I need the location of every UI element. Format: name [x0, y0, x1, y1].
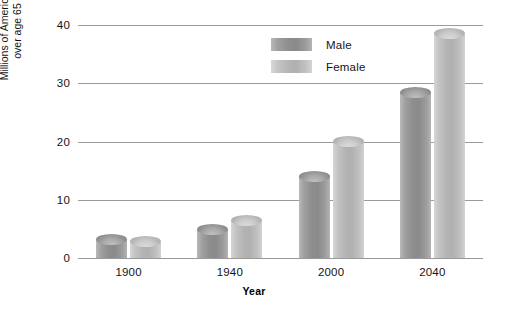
x-axis-tick-label: 2000 — [318, 266, 344, 278]
bar-male-2040[interactable] — [400, 92, 431, 258]
bar-body — [231, 220, 262, 258]
legend-item-female: Female — [271, 60, 391, 73]
bar-body — [434, 34, 465, 258]
y-axis-title-line-1: Millions of Americans — [0, 0, 10, 80]
y-axis-tick-label: 0 — [44, 252, 70, 264]
y-axis-tick-label: 40 — [44, 19, 70, 31]
bar-body — [299, 176, 330, 258]
bar-male-1900[interactable] — [96, 240, 127, 258]
bar-group — [96, 25, 161, 258]
gridline — [78, 258, 483, 259]
bar-cap-ellipse — [400, 87, 431, 98]
bar-group — [400, 25, 465, 258]
bar-female-2040[interactable] — [434, 34, 465, 258]
x-axis-title: Year — [0, 285, 508, 297]
legend-label-male: Male — [326, 39, 352, 51]
legend-item-male: Male — [271, 38, 391, 51]
x-axis-tick-label: 1900 — [115, 266, 141, 278]
bar-chart: 010203040 Millions of Americans over age… — [0, 0, 508, 311]
x-axis-tick-labels: 1900194020002040 — [78, 266, 483, 282]
legend: Male Female — [271, 38, 391, 82]
y-axis-title: Millions of Americans over age 65 — [0, 0, 23, 96]
bar-cap-ellipse — [231, 215, 262, 226]
bar-body — [333, 142, 364, 259]
bar-group — [197, 25, 262, 258]
y-axis-tick-label: 10 — [44, 194, 70, 206]
bar-cap-ellipse — [333, 136, 364, 147]
legend-swatch-male-icon — [271, 38, 312, 51]
legend-swatch-female-icon — [271, 60, 312, 73]
bar-female-2000[interactable] — [333, 142, 364, 259]
y-axis-tick-label: 20 — [44, 136, 70, 148]
y-axis-tick-label: 30 — [44, 77, 70, 89]
bar-female-1940[interactable] — [231, 220, 262, 258]
bar-cap-ellipse — [299, 171, 330, 182]
x-axis-tick-label: 1940 — [217, 266, 243, 278]
bar-female-1900[interactable] — [130, 242, 161, 258]
legend-label-female: Female — [326, 61, 366, 73]
bar-male-1940[interactable] — [197, 229, 228, 258]
bar-male-2000[interactable] — [299, 176, 330, 258]
bar-body — [400, 92, 431, 258]
x-axis-tick-label: 2040 — [419, 266, 445, 278]
y-axis-title-line-2: over age 65 — [11, 0, 24, 96]
